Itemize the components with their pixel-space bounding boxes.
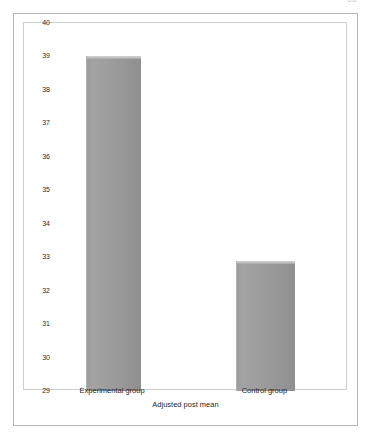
x-axis-category-label: Control group bbox=[242, 386, 287, 395]
y-axis-tick-label: 35 bbox=[26, 186, 50, 194]
bar-top-highlight bbox=[86, 56, 141, 59]
y-axis-tick-label: 31 bbox=[26, 320, 50, 328]
page-number-artifact: 66 bbox=[347, 0, 357, 2]
bar-top-highlight bbox=[236, 261, 295, 264]
plot-area: 403938373635343332313029 bbox=[23, 22, 347, 390]
y-axis-tick-label: 39 bbox=[26, 52, 50, 60]
bar-left-edge bbox=[236, 261, 237, 391]
y-axis-tick-label: 32 bbox=[26, 287, 50, 295]
bar-chart: 403938373635343332313029 Adjusted post m… bbox=[14, 14, 357, 425]
y-axis-tick-label: 30 bbox=[26, 354, 50, 362]
x-axis-category-label: Experimental group bbox=[80, 386, 145, 395]
y-axis-tick-label: 34 bbox=[26, 220, 50, 228]
y-axis-tick-label: 33 bbox=[26, 253, 50, 261]
y-axis-tick-label: 37 bbox=[26, 119, 50, 127]
bar-left-edge bbox=[86, 56, 87, 391]
plot-inner: 403938373635343332313029 bbox=[24, 23, 346, 389]
figure-frame: 403938373635343332313029 Adjusted post m… bbox=[13, 13, 358, 426]
bar-2 bbox=[236, 261, 295, 391]
y-axis-tick-label: 38 bbox=[26, 86, 50, 94]
y-axis-tick-label: 36 bbox=[26, 153, 50, 161]
y-axis-tick-label: 29 bbox=[26, 387, 50, 395]
x-axis-title: Adjusted post mean bbox=[14, 400, 357, 409]
y-axis-tick-label: 40 bbox=[26, 19, 50, 27]
bar-1 bbox=[86, 56, 141, 391]
